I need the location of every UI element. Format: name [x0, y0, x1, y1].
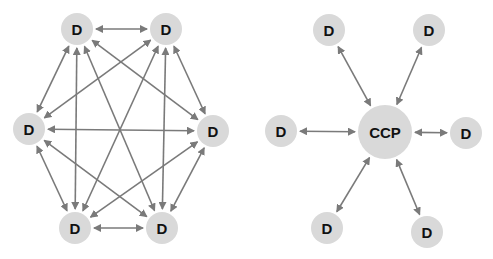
ccp-hub-node: CCP	[358, 105, 412, 159]
node-label: D	[161, 21, 172, 38]
bidirectional-arrow	[162, 48, 165, 209]
node-label: D	[424, 22, 435, 39]
node-label: D	[461, 125, 472, 142]
node-label: CCP	[369, 124, 401, 141]
bidirectional-arrow	[48, 129, 194, 131]
bidirectional-arrow	[300, 131, 355, 132]
hub-node-d: D	[450, 117, 482, 149]
bidirectional-arrow	[337, 158, 370, 212]
hub-node-d: D	[413, 14, 445, 46]
bidirectional-arrow	[338, 47, 370, 106]
bidirectional-arrow	[37, 146, 67, 211]
bidirectional-arrow	[75, 48, 77, 209]
mesh-node-d: D	[59, 212, 91, 244]
mesh-node-d: D	[146, 212, 178, 244]
node-label: D	[24, 121, 35, 138]
mesh-node-d: D	[150, 13, 182, 45]
node-label: D	[72, 21, 83, 38]
bidirectional-arrow	[44, 40, 150, 118]
node-label: D	[422, 224, 433, 241]
node-label: D	[276, 123, 287, 140]
node-label: D	[208, 123, 219, 140]
bidirectional-arrow	[397, 160, 420, 215]
bidirectional-arrow	[91, 142, 198, 217]
node-label: D	[322, 220, 333, 237]
hub-node-d: D	[411, 216, 443, 248]
mesh-node-d: D	[61, 13, 93, 45]
node-label: D	[324, 22, 335, 39]
bidirectional-arrow	[44, 140, 147, 216]
bidirectional-arrow	[397, 47, 422, 104]
hub-node-d: D	[313, 14, 345, 46]
mesh-node-d: D	[13, 113, 45, 145]
bidirectional-arrow	[92, 40, 198, 119]
node-label: D	[70, 220, 81, 237]
hub-node-d: D	[265, 115, 297, 147]
bidirectional-arrow	[37, 46, 69, 112]
bidirectional-arrow	[174, 46, 205, 113]
hub-node-d: D	[311, 212, 343, 244]
diagram-canvas: DDDDDD CCPDDDDDD	[0, 0, 493, 259]
mesh-node-d: D	[197, 115, 229, 147]
node-label: D	[157, 220, 168, 237]
